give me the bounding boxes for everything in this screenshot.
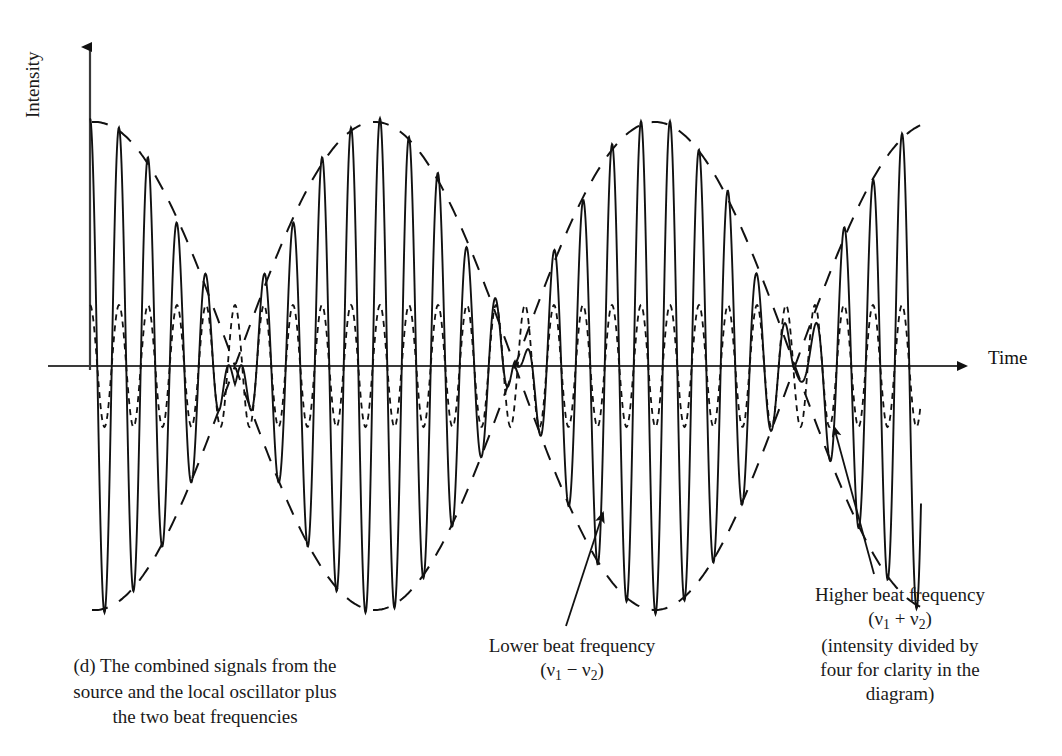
annotation-lower-formula: (ν1 − ν2) — [466, 658, 678, 684]
nu-symbol-1: ν — [874, 608, 883, 629]
nu-subscript-2: 2 — [591, 668, 598, 683]
annotation-higher-line3: (intensity divided by — [780, 634, 1020, 658]
y-axis-label-text: Intensity — [22, 52, 44, 119]
annotation-higher-line4: four for clarity in the — [780, 658, 1020, 682]
caption-line-1: (d) The combined signals from the — [40, 653, 370, 679]
annotation-higher-line5: diagram) — [780, 682, 1020, 706]
annotation-lower-beat-frequency: Lower beat frequency (ν1 − ν2) — [466, 634, 678, 685]
operator: − — [562, 659, 582, 680]
nu-subscript-1: 1 — [555, 668, 562, 683]
paren-close: ) — [926, 608, 932, 629]
nu-subscript-1: 1 — [883, 617, 890, 632]
figure-caption: (d) The combined signals from the source… — [40, 653, 370, 730]
figure-root: Intensity Time Lower beat frequency (ν1 … — [0, 0, 1062, 756]
operator: + — [890, 608, 910, 629]
nu-subscript-2: 2 — [919, 617, 926, 632]
nu-symbol-2: ν — [910, 608, 919, 629]
annotation-higher-line1: Higher beat frequency — [780, 583, 1020, 607]
axes-group — [48, 47, 966, 370]
caption-line-2: source and the local oscillator plus — [40, 679, 370, 705]
paren-close: ) — [598, 659, 604, 680]
x-axis-label: Time — [988, 347, 1027, 369]
caption-line-3: the two beat frequencies — [40, 704, 370, 730]
pointer-lower-beat — [566, 513, 603, 626]
annotation-higher-beat-frequency: Higher beat frequency (ν1 + ν2) (intensi… — [780, 583, 1020, 707]
nu-symbol-2: ν — [582, 659, 591, 680]
annotation-lower-line1: Lower beat frequency — [466, 634, 678, 658]
annotation-higher-formula: (ν1 + ν2) — [780, 607, 1020, 633]
nu-symbol-1: ν — [546, 659, 555, 680]
lower-beat-envelope-upper — [92, 122, 925, 366]
